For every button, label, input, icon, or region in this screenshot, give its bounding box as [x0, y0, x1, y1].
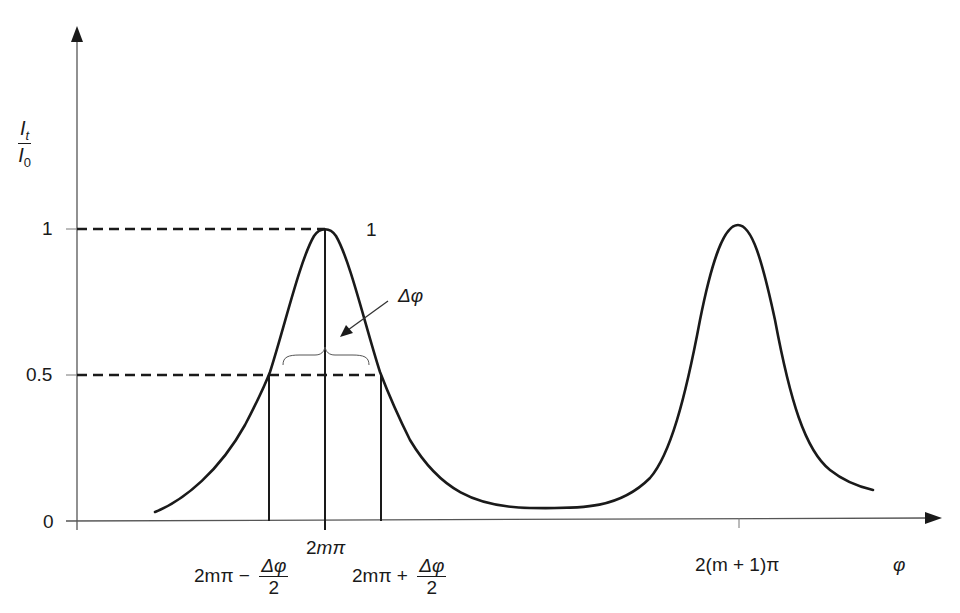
y-label-numerator-sub: t: [26, 128, 30, 143]
y-tick-label-05: 0.5: [26, 365, 52, 384]
y-axis-label: It I0: [18, 118, 31, 169]
y-tick-label-1: 1: [42, 219, 53, 238]
delta-phi-label: Δφ: [398, 286, 423, 305]
y-label-denominator-sub: 0: [24, 155, 31, 170]
x-tick-left-den: 2: [268, 577, 279, 597]
x-tick-right-prefix: 2mπ +: [352, 565, 408, 586]
x-tick-label-next-peak: 2(m + 1)π: [695, 555, 779, 574]
x-axis-label: φ: [893, 555, 905, 574]
peak-value-label: 1: [366, 220, 377, 239]
x-axis-arrow-icon: [925, 512, 942, 524]
x-tick-right-den: 2: [426, 577, 437, 597]
x-axis: [66, 518, 928, 521]
x-tick-label-center: 2mπ: [306, 538, 345, 557]
y-tick-label-0: 0: [43, 512, 54, 531]
x-tick-right-num: Δφ: [417, 556, 446, 577]
y-axis-arrow-icon: [71, 26, 83, 42]
x-tick-left-prefix: 2mπ −: [194, 565, 250, 586]
x-tick-label-right: 2mπ + Δφ 2: [352, 556, 446, 597]
x-tick-left-num: Δφ: [259, 556, 288, 577]
plot-canvas: [0, 0, 960, 613]
x-tick-label-left: 2mπ − Δφ 2: [194, 556, 288, 597]
delta-phi-arrowhead-icon: [340, 325, 353, 337]
delta-phi-arrow: [348, 301, 388, 330]
transmission-curve: [155, 225, 873, 512]
